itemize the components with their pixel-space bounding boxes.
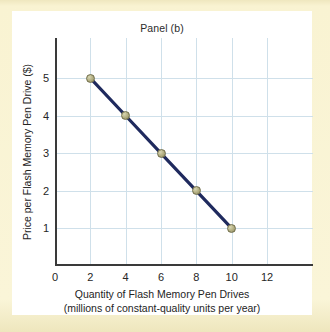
figure-root: Panel (b) Price per Flash Memory Pen Dri… [0,0,330,332]
x-tick-label: 10 [226,271,238,283]
x-tick-label: 12 [261,271,273,283]
x-tick-label: 8 [193,271,199,283]
y-axis-label: Price per Flash Memory Pen Drive ($) [20,38,34,266]
x-tick-label: 6 [158,271,164,283]
x-axis-label-line1: Quantity of Flash Memory Pen Drives [12,288,312,302]
plot-area: 02468101212345 [55,38,313,266]
y-tick-label: 1 [43,222,49,234]
demand-curve-line [55,38,313,266]
y-tick-label: 4 [43,110,49,122]
x-axis-label: Quantity of Flash Memory Pen Drives (mil… [12,288,312,315]
chart-title: Panel (b) [12,22,312,34]
y-axis-label-text: Price per Flash Memory Pen Drive ($) [21,64,33,240]
data-point-marker [86,74,95,83]
x-tick-label: 0 [52,271,58,283]
chart-card: Panel (b) Price per Flash Memory Pen Dri… [12,11,312,315]
y-tick-label: 3 [43,147,49,159]
x-axis-label-line2: (millions of constant-quality units per … [12,302,312,316]
y-tick-label: 5 [43,72,49,84]
x-tick-label: 4 [123,271,129,283]
x-tick-label: 2 [87,271,93,283]
data-point-marker [157,149,166,158]
y-tick-label: 2 [43,185,49,197]
